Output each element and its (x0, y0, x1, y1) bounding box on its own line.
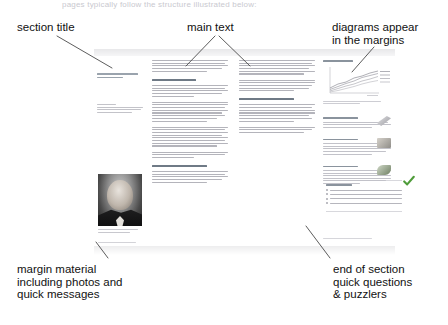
section-title-block (97, 73, 145, 78)
paragraph (152, 152, 228, 158)
paragraph (239, 60, 315, 75)
photo-face (107, 180, 133, 210)
left-margin-footer (98, 242, 142, 245)
chart-caption (323, 101, 391, 105)
main-column-right (239, 60, 315, 138)
subheading (152, 79, 196, 81)
chart-title-rule (323, 60, 353, 62)
right-margin-footer (323, 238, 391, 241)
paragraph (152, 60, 228, 72)
list-item (326, 198, 402, 200)
leaf-icon (377, 165, 391, 175)
annotation-diagrams-in-margins: diagrams appear in the margins (332, 21, 418, 46)
chart-plot (323, 65, 391, 99)
photo-caption (98, 229, 142, 234)
paragraph (152, 127, 228, 147)
page-top-shadow (94, 49, 395, 56)
annotation-main-text: main text (187, 21, 234, 34)
annotation-section-title: section title (17, 21, 75, 34)
photo-thumb (377, 138, 391, 148)
document-page-preview (94, 49, 395, 249)
main-column-left (152, 60, 228, 188)
annotation-end-of-section: end of section quick questions & puzzler… (333, 263, 412, 301)
module-heading (323, 166, 358, 168)
annotation-margin-material: margin material including photos and qui… (17, 263, 123, 301)
series-a (330, 71, 378, 88)
margin-module (323, 117, 391, 128)
left-margin-column (97, 60, 145, 115)
paragraph (239, 127, 315, 133)
margin-photo (98, 174, 142, 226)
chart-legend (380, 71, 390, 83)
right-margin-column (323, 60, 391, 195)
paragraph (152, 171, 228, 183)
paragraph (152, 85, 228, 97)
subheading (152, 165, 207, 167)
list-item (326, 202, 402, 204)
series-d (330, 80, 378, 92)
series-c (330, 76, 378, 91)
bullet-icon (326, 198, 328, 200)
module-heading (323, 139, 358, 141)
paragraph (239, 80, 315, 92)
figure-canvas: pages typically follow the structure ill… (0, 0, 448, 325)
paragraph (239, 104, 315, 121)
margin-module (323, 166, 391, 184)
page-bottom-shadow (94, 246, 395, 255)
margin-module (323, 139, 391, 155)
check-icon (403, 175, 415, 187)
bullet-icon (326, 202, 328, 204)
module-heading (323, 117, 358, 119)
quick-message-block (97, 104, 145, 113)
x-axis-label-rule (367, 95, 378, 96)
paragraph (152, 102, 228, 122)
subheading (239, 98, 294, 100)
cropped-caption-line: pages typically follow the structure ill… (62, 0, 352, 9)
margin-line-chart (323, 60, 391, 108)
page-content (94, 56, 395, 242)
